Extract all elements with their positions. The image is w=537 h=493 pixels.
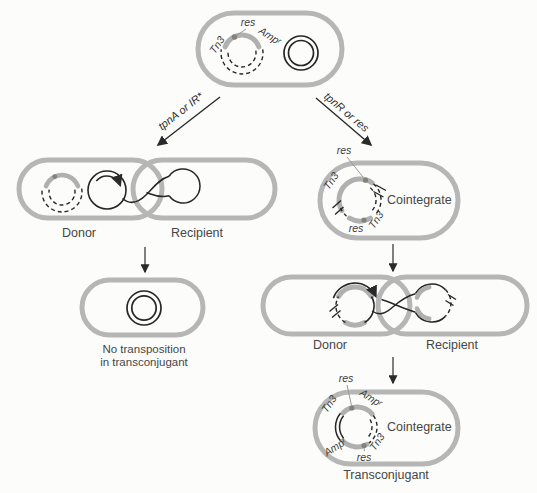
caption-line2: in transconjugant	[100, 356, 188, 368]
donor-label: Donor	[62, 226, 96, 240]
no-transposition-cell: No transposition in transconjugant	[82, 280, 203, 368]
dashed-arc-right-inner	[370, 188, 376, 211]
transposon-arc	[225, 35, 259, 47]
recipient-label: Recipient	[426, 338, 479, 352]
replication-arrow	[96, 176, 120, 185]
plasmid-dashed-outer	[42, 189, 82, 212]
transferring-plasmid	[88, 169, 200, 209]
donor-label: Donor	[313, 338, 347, 352]
cointegrate-cell: res Tn3 Tn3 res Cointegrate	[320, 144, 458, 238]
tn3-lower-label: Tn3	[366, 209, 386, 231]
res-site-dot-top	[363, 178, 368, 183]
transconjugant-cell: res Tn3 Ampʳ Ampʳ Tn3 res Cointegrate Tr…	[315, 372, 458, 482]
target-plasmid-inner	[289, 41, 314, 66]
caption-line1: No transposition	[102, 343, 185, 355]
res-site-dot-top	[349, 405, 354, 410]
transposon-arc-bottom	[346, 323, 365, 326]
dashed-arc-left	[336, 297, 346, 323]
transposon-arc	[46, 175, 78, 186]
donor-cointegrate	[330, 283, 376, 325]
res-label: res	[241, 16, 256, 28]
res-bottom-label: res	[349, 222, 364, 234]
double-arc-left-inner	[340, 416, 344, 438]
res-bottom-label: res	[357, 451, 372, 463]
recipient-loop	[416, 284, 457, 322]
solid-arc-right	[365, 297, 375, 323]
res-top-label: res	[339, 372, 354, 384]
right-mating-pair: Donor Recipient	[263, 277, 527, 352]
branch-right: tpnR or res	[316, 90, 372, 145]
transposition-diagram: res Tn3 Ampʳ tpnA or IR* tpnR or res	[0, 0, 537, 493]
transconjugant-caption: Transconjugant	[343, 468, 429, 482]
donor-tn3-plasmid	[42, 174, 82, 212]
right-branch-label: tpnR or res	[322, 90, 372, 134]
plasmid-inner	[132, 296, 156, 320]
plasmid-dashed-inner	[228, 51, 256, 67]
transposon-arc-top	[339, 287, 372, 297]
top-donor-cell: res Tn3 Ampʳ	[198, 13, 342, 85]
plasmid-dashed-inner	[49, 190, 75, 205]
res-pointer-line	[347, 157, 363, 177]
res-top-label: res	[337, 144, 352, 156]
cell-membrane	[82, 280, 203, 335]
hash-mark	[446, 301, 454, 306]
recipient-label: Recipient	[171, 226, 224, 240]
transposon-arc-top	[339, 179, 372, 210]
left-mating-pair: Donor Recipient	[19, 160, 275, 240]
target-plasmid	[284, 36, 318, 70]
transposon-arc-top	[343, 407, 372, 414]
res-pointer-line	[347, 385, 352, 406]
dashed-arc-right-outer	[374, 184, 382, 214]
hash-mark	[448, 295, 456, 300]
dashed-arc-right-inner	[367, 420, 372, 439]
left-branch-label: tpnA or IR*	[156, 89, 206, 132]
tn3-plasmid: res Tn3 Ampʳ	[207, 16, 284, 74]
transfer-strand-lower	[147, 193, 170, 197]
res-site-dot	[52, 174, 57, 179]
cointegrate-label: Cointegrate	[387, 193, 452, 207]
tn3-label: Tn3	[207, 34, 227, 56]
cointegrate-label: Cointegrate	[387, 420, 452, 434]
branch-left: tpnA or IR*	[156, 89, 220, 145]
figure-canvas: res Tn3 Ampʳ tpnA or IR* tpnR or res	[0, 0, 537, 493]
recipient-loop	[169, 169, 200, 203]
